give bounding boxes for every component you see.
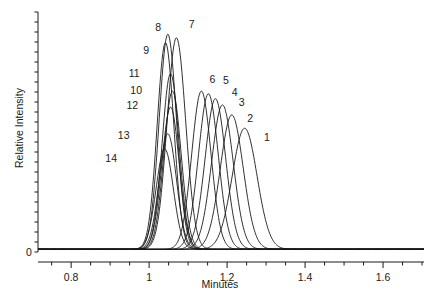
x-tick-label: 1: [146, 271, 152, 283]
peak-trace-11: [38, 74, 424, 249]
peak-label-1: 1: [264, 132, 270, 143]
peak-label-12: 12: [126, 100, 138, 111]
peak-label-14: 14: [105, 153, 117, 164]
peak-label-5: 5: [223, 75, 229, 86]
peak-trace-3: [38, 105, 424, 249]
peak-label-10: 10: [130, 85, 142, 96]
peak-label-3: 3: [239, 97, 245, 108]
y-axis-zero-label: 0: [26, 246, 32, 258]
peak-trace-13: [38, 134, 424, 250]
x-tick-label: 1.2: [220, 271, 235, 283]
x-tick-label: 0.8: [64, 271, 79, 283]
peak-trace-4: [38, 99, 424, 250]
y-axis-label: Relative Intensity: [13, 73, 25, 183]
x-tick-label: 1.4: [298, 271, 313, 283]
peak-label-11: 11: [129, 68, 140, 79]
chart-canvas: [0, 0, 440, 300]
peak-label-9: 9: [143, 45, 149, 56]
peak-label-13: 13: [118, 130, 130, 141]
peak-label-2: 2: [247, 113, 253, 124]
peak-label-4: 4: [232, 87, 238, 98]
chromatogram-figure: Relative Intensity Minutes 0 0.811.21.41…: [0, 0, 440, 300]
x-tick-label: 1.6: [376, 271, 391, 283]
peak-trace-12: [38, 107, 424, 249]
peak-label-6: 6: [209, 74, 215, 85]
peak-label-7: 7: [189, 19, 195, 30]
peak-label-8: 8: [155, 22, 161, 33]
peak-trace-5: [38, 94, 424, 250]
